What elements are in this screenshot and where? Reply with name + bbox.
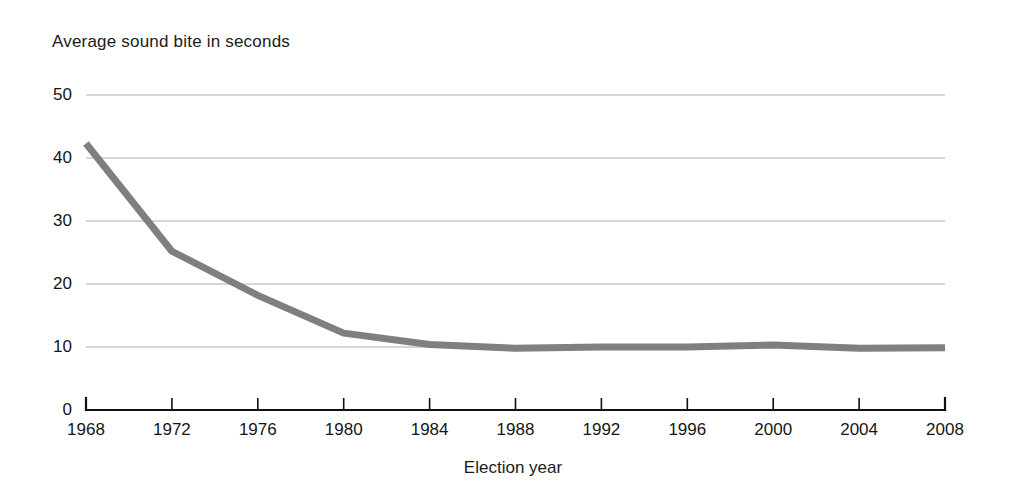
x-axis-tick-label: 1992 [582,420,620,439]
x-axis-tick-label: 2000 [754,420,792,439]
x-axis-tick-label: 1968 [67,420,105,439]
y-axis-tick-label: 0 [63,400,72,419]
gridlines [86,95,945,347]
y-axis-tick-label: 10 [53,337,72,356]
x-axis-tick-label: 1988 [497,420,535,439]
y-axis-tick-label: 40 [53,148,72,167]
x-axis-tick-label: 2004 [840,420,878,439]
y-axis-tick-label: 50 [53,85,72,104]
x-axis-tick-label: 1976 [239,420,277,439]
y-axis-tick-labels: 01020304050 [53,85,72,419]
chart-container: Average sound bite in seconds 0102030405… [0,0,1026,503]
x-axis-tick-labels: 1968197219761980198419881992199620002004… [67,420,964,439]
x-axis-tick-label: 2008 [926,420,964,439]
x-axis-tick-label: 1972 [153,420,191,439]
x-axis-tick-label: 1984 [411,420,449,439]
data-series-line [86,144,945,349]
y-axis-tick-label: 30 [53,211,72,230]
line-chart-plot: 01020304050 1968197219761980198419881992… [0,0,1026,503]
y-axis-tick-label: 20 [53,274,72,293]
x-axis-line-group [86,398,945,410]
x-axis-title: Election year [0,458,1026,478]
x-axis-tick-label: 1996 [668,420,706,439]
x-axis-tick-label: 1980 [325,420,363,439]
